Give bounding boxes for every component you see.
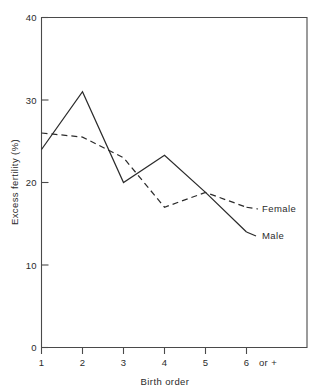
y-tick-label-10: 10 xyxy=(26,260,37,271)
y-tick-label-20: 20 xyxy=(26,177,37,188)
y-axis-title: Excess fertility (%) xyxy=(9,139,20,225)
y-axis-tick-labels: 40 30 20 10 0 xyxy=(26,12,37,353)
legend-label-female: Female xyxy=(262,203,296,214)
x-axis-tick-labels: 1 2 3 4 5 6 or + xyxy=(39,357,278,368)
axis-frame-rect xyxy=(42,18,308,348)
y-tick-label-40: 40 xyxy=(26,12,37,23)
leader-line-male xyxy=(247,232,257,236)
x-axis-ticks xyxy=(42,348,247,355)
line-chart-figure: 40 30 20 10 0 Excess fertility (%) 1 2 3… xyxy=(0,0,323,389)
x-tick-label-6: 6 xyxy=(244,357,250,368)
x-tick-label-1: 1 xyxy=(39,357,45,368)
y-tick-label-30: 30 xyxy=(26,95,37,106)
series-line-female xyxy=(42,133,247,207)
y-axis-ticks xyxy=(42,18,49,348)
plot-frame xyxy=(42,18,308,348)
legend-label-male: Male xyxy=(262,230,284,241)
x-tick-label-4: 4 xyxy=(162,357,168,368)
x-tick-label-5: 5 xyxy=(203,357,209,368)
x-tick-label-suffix: or + xyxy=(259,357,277,368)
x-tick-label-2: 2 xyxy=(80,357,86,368)
series-line-male xyxy=(42,92,247,232)
y-tick-label-0: 0 xyxy=(31,342,37,353)
leader-line-female xyxy=(247,207,259,209)
chart-svg: 40 30 20 10 0 Excess fertility (%) 1 2 3… xyxy=(0,0,323,389)
x-axis-title: Birth order xyxy=(141,376,190,387)
x-tick-label-3: 3 xyxy=(121,357,127,368)
